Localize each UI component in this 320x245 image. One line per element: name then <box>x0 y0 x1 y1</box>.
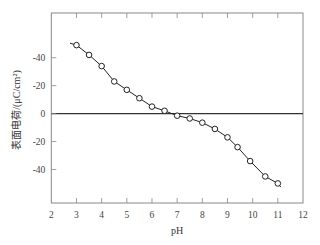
y-tick-label: -40 <box>33 165 46 175</box>
data-point-marker <box>174 113 180 119</box>
data-point-marker <box>137 95 143 101</box>
x-tick-label: 6 <box>150 210 155 220</box>
y-tick-label: 0 <box>41 109 46 119</box>
y-axis-title: 表面电荷/(μC/cm²) <box>10 70 23 149</box>
x-tick-label: 2 <box>49 210 54 220</box>
x-axis-title: pH <box>171 225 183 236</box>
data-point-marker <box>86 52 92 58</box>
x-tick-label: 11 <box>273 210 282 220</box>
data-point-marker <box>262 174 268 180</box>
data-point-marker <box>235 144 241 150</box>
x-tick-label: 12 <box>298 210 308 220</box>
y-tick-label: -20 <box>33 137 46 147</box>
data-point-marker <box>99 63 105 69</box>
x-tick-label: 5 <box>124 210 129 220</box>
data-point-marker <box>149 104 155 110</box>
data-series <box>70 42 281 187</box>
data-point-marker <box>124 87 130 93</box>
data-point-marker <box>187 116 193 122</box>
data-point-marker <box>225 135 231 141</box>
data-point-marker <box>275 181 281 187</box>
y-tick-label: -40 <box>33 53 46 63</box>
surface-charge-chart: 23456789101112 -40-200-20-40 pH 表面电荷/(μC… <box>0 0 320 245</box>
x-tick-label: 8 <box>200 210 205 220</box>
x-tick-label: 9 <box>225 210 230 220</box>
y-tick-label: -20 <box>33 81 46 91</box>
data-point-marker <box>212 126 218 132</box>
x-tick-label: 3 <box>74 210 79 220</box>
x-tick-label: 10 <box>248 210 258 220</box>
x-tick-label: 4 <box>99 210 104 220</box>
data-point-marker <box>247 158 253 164</box>
data-point-marker <box>111 79 117 85</box>
data-point-marker <box>200 120 206 126</box>
data-point-marker <box>74 42 80 48</box>
x-tick-label: 7 <box>175 210 180 220</box>
data-point-marker <box>162 108 168 114</box>
